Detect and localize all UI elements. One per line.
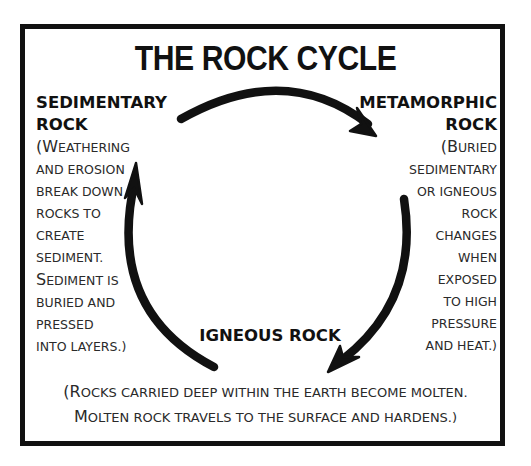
cycle-arrows <box>0 0 531 466</box>
curved-arrow-icon <box>328 199 407 372</box>
curved-arrow-icon <box>125 163 214 367</box>
curved-arrow-icon <box>181 91 376 136</box>
